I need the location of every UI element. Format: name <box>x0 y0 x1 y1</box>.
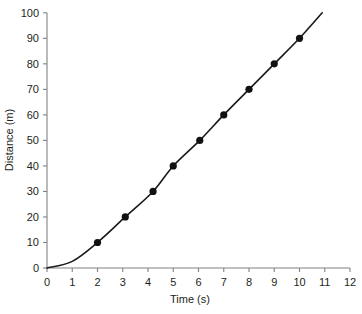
x-axis-tick-label: 4 <box>145 276 151 288</box>
x-axis-title: Time (s) <box>170 293 210 305</box>
y-axis-tick-label: 50 <box>27 134 39 146</box>
x-axis-tick-label: 10 <box>293 276 305 288</box>
x-axis-tick-label: 11 <box>319 276 330 288</box>
data-point <box>245 86 252 93</box>
x-axis-tick-label: 6 <box>195 276 201 288</box>
x-axis-tick-label: 2 <box>94 276 100 288</box>
x-axis-tick-label: 1 <box>69 276 75 288</box>
data-point <box>122 213 129 220</box>
y-axis-tick-label: 100 <box>21 7 39 19</box>
y-axis-tick-label: 10 <box>27 236 39 248</box>
y-axis-tick-label: 20 <box>27 211 39 223</box>
y-axis-tick-label: 80 <box>27 58 39 70</box>
data-point <box>94 239 101 246</box>
y-axis-tick-label: 70 <box>27 83 39 95</box>
x-axis-tick-label: 12 <box>344 276 356 288</box>
data-point <box>220 111 227 118</box>
data-point <box>296 35 303 42</box>
x-axis-tick-label: 8 <box>246 276 252 288</box>
y-axis-tick-label: 40 <box>27 160 39 172</box>
data-point <box>271 60 278 67</box>
y-axis-tick-label: 60 <box>27 109 39 121</box>
x-axis-tick-label: 0 <box>44 276 50 288</box>
data-point <box>149 188 156 195</box>
y-axis-title: Distance (m) <box>3 109 15 171</box>
y-axis-tick-label: 0 <box>33 262 39 274</box>
y-axis-tick-label: 90 <box>27 32 39 44</box>
data-point <box>170 162 177 169</box>
x-axis-tick-label: 5 <box>170 276 176 288</box>
x-axis-tick-label: 3 <box>120 276 126 288</box>
distance-time-chart: 0102030405060708090100 0123456789101112 … <box>0 0 362 314</box>
x-axis-tick-label: 7 <box>221 276 227 288</box>
x-axis-tick-label: 9 <box>271 276 277 288</box>
y-axis-tick-label: 30 <box>27 185 39 197</box>
data-point <box>196 137 203 144</box>
chart-container: 0102030405060708090100 0123456789101112 … <box>0 0 362 314</box>
